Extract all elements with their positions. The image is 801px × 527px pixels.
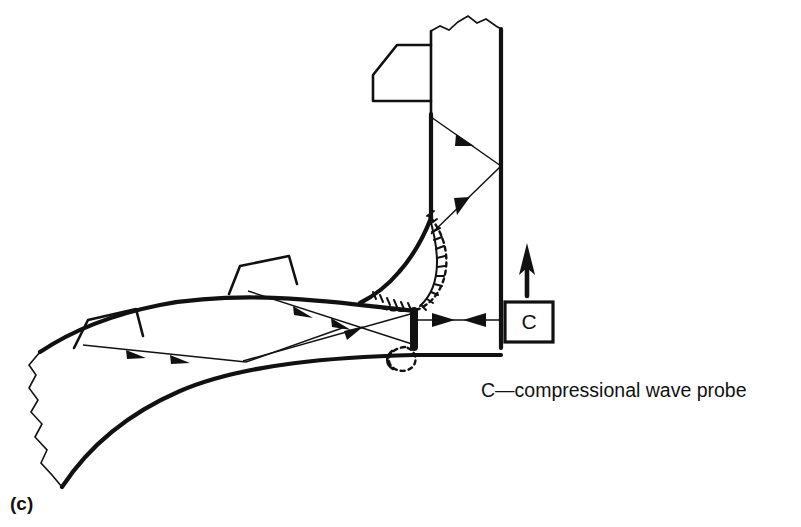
curved-plate-top-surface [40,297,414,352]
vertical-plate [431,16,501,348]
probe-box-label: C [521,310,536,333]
vertical-plate-break-edge [431,16,501,31]
ray-paths [83,117,501,364]
curved-plate-to-vertical-fillet [360,218,431,303]
probe-shoe-upper-left-outline [373,45,431,101]
weld-root-bead [387,347,415,371]
probe-shoe-lower-left [74,309,143,348]
figure-canvas: C C—compressional wave probe (c) [0,0,801,527]
probe-shoe-mid [229,256,297,294]
curved-branch-plate [29,218,431,487]
panel-label: (c) [10,493,33,514]
ray-probe-arrowhead-right [432,313,455,327]
probe-scan-direction-arrow [519,243,535,296]
curved-plate-bottom-surface [62,355,414,487]
ray-mid-arrowhead-1 [293,306,313,318]
ray-lower-right-to-left [83,345,246,362]
probe-shoe-upper-left [373,45,431,101]
weld-fusion-zone [373,211,446,347]
compressional-wave-probe-C[interactable]: C [505,302,553,342]
ray-probe-arrowhead-left [463,313,486,327]
probe-shoe-lower-left-outline [74,309,143,348]
ray-upper-down-right-arrowhead [455,134,474,146]
ray-lower-up-right [246,327,345,362]
probe-shoe-mid-outline [229,256,297,294]
ray-upper-reflected-arrowhead [454,197,470,215]
weld-hatch-ticks [421,211,445,310]
curved-plate-break-edge [29,352,62,487]
legend-text: C—compressional wave probe [481,379,747,401]
weld-inspection-diagram: C C—compressional wave probe (c) [0,0,801,527]
